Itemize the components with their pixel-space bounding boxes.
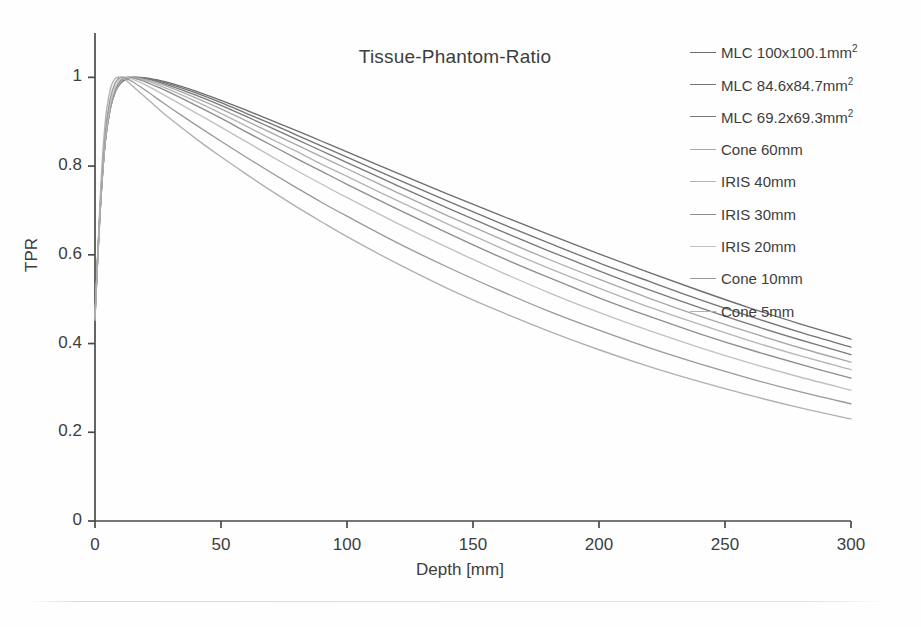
legend-item[interactable]: IRIS 40mm	[690, 166, 915, 198]
legend-label: IRIS 30mm	[721, 207, 796, 222]
x-axis-label: Depth [mm]	[330, 560, 590, 580]
legend-label: Cone 5mm	[721, 304, 794, 319]
y-tick-label: 0.4	[30, 333, 82, 353]
x-tick-label: 200	[569, 535, 629, 555]
legend-item[interactable]: MLC 69.2x69.3mm2	[690, 101, 915, 133]
legend-swatch-line	[690, 149, 716, 150]
legend: MLC 100x100.1mm2MLC 84.6x84.7mm2MLC 69.2…	[690, 36, 915, 328]
legend-label: MLC 100x100.1mm2	[721, 44, 857, 60]
legend-swatch-line	[690, 246, 716, 247]
legend-swatch-line	[690, 116, 716, 117]
legend-swatch-line	[690, 214, 716, 215]
legend-swatch-line	[690, 52, 716, 53]
y-tick-label: 0	[30, 510, 82, 530]
legend-item[interactable]: Cone 5mm	[690, 295, 915, 327]
legend-label: MLC 69.2x69.3mm2	[721, 109, 853, 125]
x-tick-label: 300	[821, 535, 881, 555]
legend-label: Cone 60mm	[721, 142, 803, 157]
x-tick-label: 100	[317, 535, 377, 555]
x-tick-label: 0	[65, 535, 125, 555]
y-tick-label: 0.8	[30, 155, 82, 175]
legend-item[interactable]: Cone 60mm	[690, 133, 915, 165]
legend-label: MLC 84.6x84.7mm2	[721, 77, 853, 93]
legend-swatch-line	[690, 278, 716, 279]
x-tick-label: 250	[695, 535, 755, 555]
legend-label: Cone 10mm	[721, 271, 803, 286]
figure-canvas: Tissue-Phantom-Ratio 00.20.40.60.81 0501…	[0, 0, 921, 627]
legend-swatch-line	[690, 311, 716, 312]
legend-item[interactable]: MLC 100x100.1mm2	[690, 36, 915, 68]
x-tick-label: 50	[191, 535, 251, 555]
y-tick-label: 0.2	[30, 421, 82, 441]
y-tick-label: 1	[30, 66, 82, 86]
x-tick-label: 150	[443, 535, 503, 555]
legend-swatch-line	[690, 84, 716, 85]
legend-item[interactable]: Cone 10mm	[690, 263, 915, 295]
legend-item[interactable]: IRIS 20mm	[690, 230, 915, 262]
legend-item[interactable]: MLC 84.6x84.7mm2	[690, 68, 915, 100]
legend-label: IRIS 40mm	[721, 174, 796, 189]
legend-item[interactable]: IRIS 30mm	[690, 198, 915, 230]
y-axis-label: TPR	[22, 238, 42, 272]
legend-swatch-line	[690, 181, 716, 182]
legend-label: IRIS 20mm	[721, 239, 796, 254]
scan-artifact-line	[28, 601, 890, 602]
